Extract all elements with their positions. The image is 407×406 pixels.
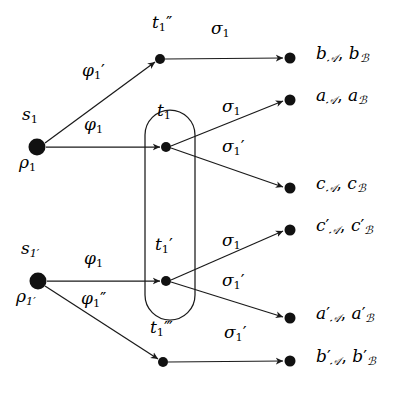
node-label-t1: t1 <box>157 102 171 121</box>
node-label-rho1: ρ1 <box>19 154 36 173</box>
edge-label-phi1-lower: φ1 <box>84 250 103 269</box>
edge-t1dprime-to-out-b <box>165 58 283 59</box>
edge-label-phi1-prime: φ1′ <box>82 62 105 81</box>
output-label-c-prime: c′𝒜, c′ℬ <box>316 217 373 236</box>
edge-label-sigma1-prime-to-c: σ1′ <box>222 138 244 157</box>
group-box-outline <box>145 110 195 320</box>
merged-transition-group-box <box>145 110 195 320</box>
node-t1 <box>161 142 171 152</box>
edge-label-sigma1-to-a: σ1 <box>222 98 241 117</box>
output-label-b: b𝒜, bℬ <box>316 45 369 64</box>
node-out-a <box>285 95 296 106</box>
node-label-rho1-prime: ρ1′ <box>16 288 36 307</box>
node-label-t1-double-prime: t1″ <box>152 14 172 33</box>
output-label-a: a𝒜, aℬ <box>316 87 367 106</box>
node-out-b <box>285 53 296 64</box>
edge-label-sigma1-to-cp: σ1 <box>222 232 241 251</box>
node-label-s1-prime: s1′ <box>21 240 39 259</box>
node-t1tprime <box>158 357 168 367</box>
edge-label-sigma1-prime-to-ap: σ1′ <box>222 272 244 291</box>
node-out-cp <box>285 225 296 236</box>
edge-label-sigma1-top: σ1 <box>211 20 230 39</box>
output-label-a-prime: a′𝒜, a′ℬ <box>316 305 374 324</box>
edge-label-phi1-upper: φ1 <box>84 116 103 135</box>
node-s1prime <box>30 273 47 290</box>
node-out-c <box>285 183 296 194</box>
node-t1prime <box>161 276 171 286</box>
node-label-s1: s1 <box>22 106 38 125</box>
node-t1dprime <box>155 54 165 64</box>
node-out-bp <box>285 356 296 367</box>
edge-t1tprime-to-out-bp <box>168 361 283 362</box>
output-label-c: c𝒜, cℬ <box>316 175 366 194</box>
figure-canvas: t1″ t1 t1′ t1‴ s1 ρ1 s1′ ρ1′ φ1′ φ1 φ1 φ… <box>0 0 407 406</box>
node-s1 <box>29 139 46 156</box>
output-label-b-prime: b′𝒜, b′ℬ <box>316 348 376 367</box>
node-label-t1-prime: t1′ <box>155 236 173 255</box>
node-label-t1-triple-prime: t1‴ <box>150 319 173 338</box>
edge-label-sigma1-prime-to-bp: σ1′ <box>224 324 246 343</box>
node-out-ap <box>285 313 296 324</box>
edge-label-phi1-double-prime: φ1″ <box>81 290 106 309</box>
